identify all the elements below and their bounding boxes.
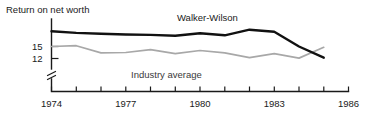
line-chart: Return on net worth 15 12 <box>0 0 382 118</box>
x-tick-label-1977: 1977 <box>115 98 136 109</box>
x-tick-label-1983: 1983 <box>264 98 285 109</box>
y-tick-label-lower: 12 <box>32 53 43 64</box>
series-line-walker-wilson <box>52 30 324 58</box>
chart-axes <box>48 19 349 92</box>
chart-axis-title: Return on net worth <box>6 4 89 15</box>
x-axis-ticks: 1974 1977 1980 1983 1986 <box>41 87 359 110</box>
series-line-industry-average <box>52 46 324 58</box>
x-tick-label-1974: 1974 <box>41 98 62 109</box>
y-tick-label-upper: 15 <box>32 41 43 52</box>
series-label-industry-average: Industry average <box>131 69 202 80</box>
y-axis-ticks: 15 12 <box>32 41 59 64</box>
series-label-walker-wilson: Walker-Wilson <box>177 12 238 23</box>
x-tick-label-1980: 1980 <box>189 98 210 109</box>
chart-screenshot: Return on net worth 15 12 <box>0 0 382 118</box>
x-tick-label-1986: 1986 <box>338 98 359 109</box>
